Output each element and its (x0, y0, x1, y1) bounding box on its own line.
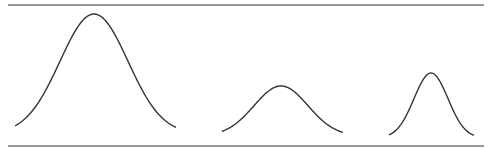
narrow-curve (389, 73, 474, 135)
bell-curves-diagram (0, 0, 495, 148)
wide-tall-curve (15, 14, 176, 127)
medium-low-curve (222, 86, 343, 132)
figure (0, 0, 495, 148)
